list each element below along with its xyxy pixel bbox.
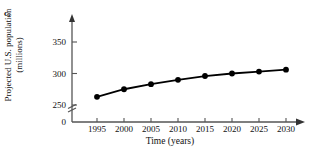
data-point [175,77,181,83]
x-tick-label: 1995 [88,124,107,134]
data-point [94,94,100,100]
y-axis-arrowhead [69,14,75,22]
x-tick-label: 2000 [115,124,134,134]
x-tick-label: 2030 [277,124,296,134]
y-axis-ticks: 0250300350 [53,37,78,127]
x-axis-arrowhead [296,119,305,126]
data-point [229,71,235,77]
y-tick-label: 350 [53,37,67,47]
x-tick-label: 2010 [169,124,188,134]
y-tick-label: 300 [53,69,67,79]
x-tick-label: 2025 [250,124,269,134]
data-point [202,73,208,79]
data-point-markers [94,67,289,100]
x-tick-label: 2005 [142,124,161,134]
x-axis-ticks: 19952000200520102015202020252030 [88,118,296,134]
x-tick-label: 2015 [196,124,215,134]
population-line-chart: 0250300350 19952000200520102015202020252… [0,0,315,154]
y-tick-label: 250 [53,100,67,110]
data-point [256,69,262,75]
chart-axes [68,14,305,126]
data-point [283,67,289,73]
y-tick-label: 0 [62,117,67,127]
data-point [121,86,127,92]
x-tick-label: 2020 [223,124,242,134]
data-point [148,81,154,87]
